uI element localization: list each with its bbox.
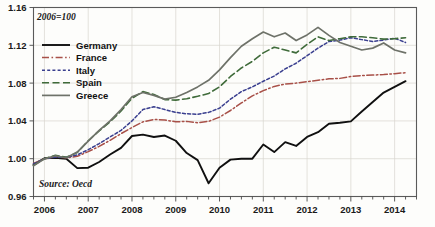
legend-label-spain: Spain (76, 77, 102, 88)
chart-screenshot: 0.961.001.041.081.121.16 200620072008200… (0, 0, 435, 227)
x-tick-label: 2006 (34, 204, 55, 215)
x-tick-label: 2011 (253, 204, 274, 215)
source-note: Source: Oecd (39, 179, 92, 189)
legend-label-france: France (76, 52, 107, 63)
x-tick-label: 2010 (209, 204, 230, 215)
legend-label-greece: Greece (76, 90, 108, 101)
x-tick-label: 2012 (297, 204, 318, 215)
x-tick-label: 2009 (165, 204, 186, 215)
y-tick-label: 1.04 (8, 115, 27, 126)
y-tick-label: 1.12 (8, 40, 27, 51)
x-tick-label: 2007 (78, 204, 99, 215)
chart-background (0, 0, 435, 227)
x-tick-label: 2013 (340, 204, 361, 215)
legend-label-germany: Germany (76, 40, 118, 51)
base-year-annotation: 2006=100 (36, 12, 76, 22)
x-tick-label: 2008 (121, 204, 142, 215)
y-tick-label: 0.96 (8, 191, 27, 202)
y-tick-label: 1.00 (8, 153, 27, 164)
y-tick-label: 1.16 (8, 2, 27, 13)
y-tick-label: 1.08 (8, 78, 27, 89)
line-chart: 0.961.001.041.081.121.16 200620072008200… (0, 0, 435, 227)
legend-label-italy: Italy (76, 65, 96, 76)
x-tick-label: 2014 (384, 204, 406, 215)
